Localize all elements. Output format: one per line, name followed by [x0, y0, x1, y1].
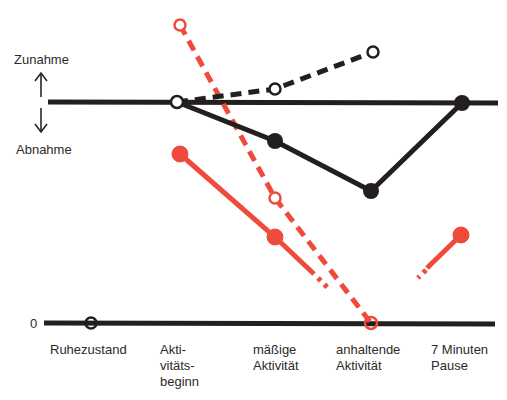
zero-label: 0 [30, 316, 37, 332]
baseline [48, 102, 498, 103]
diagram-canvas [0, 0, 507, 400]
decrease-label: Abnahme [16, 142, 72, 158]
category-label-sustained: anhaltende Aktivität [336, 342, 400, 374]
category-label-rest: Ruhezustand [50, 342, 127, 358]
zero-line [44, 323, 495, 324]
category-label-start: Akti- vitäts- beginn [160, 342, 199, 390]
series-red-solid [172, 146, 469, 290]
category-label-pause: 7 Minuten Pause [431, 342, 488, 374]
increase-label: Zunahme [14, 52, 69, 68]
increase-arrow-icon [35, 73, 47, 97]
decrease-arrow-icon [35, 108, 47, 132]
category-label-moderate: mäßige Aktivität [253, 342, 299, 374]
